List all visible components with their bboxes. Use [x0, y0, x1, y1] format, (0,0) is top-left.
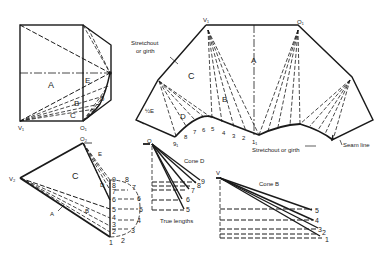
dev-stretchout-top-1: Stretchout [131, 40, 159, 46]
plan-v-line-4 [20, 104, 100, 121]
dev-label-c: C [188, 71, 195, 81]
svg-text:A: A [50, 211, 54, 217]
plan-v-line-2 [20, 86, 108, 121]
svg-text:6: 6 [186, 196, 190, 203]
svg-text:O₂: O₂ [80, 136, 88, 142]
svg-text:5: 5 [211, 126, 215, 132]
dev-leader-seam [340, 140, 342, 145]
svg-text:True lengths: True lengths [160, 218, 193, 224]
plan-v-line-3 [20, 96, 104, 121]
fan-v1 [208, 30, 259, 135]
dev-stretchout-top-2: or girth [136, 48, 155, 54]
svg-text:2: 2 [322, 229, 326, 236]
svg-text:7: 7 [112, 188, 116, 195]
plan-label-o1: O₁ [80, 125, 87, 131]
svg-text:2: 2 [121, 237, 125, 244]
svg-text:2: 2 [112, 228, 116, 235]
svg-text:3: 3 [131, 227, 135, 234]
transition-development-drawing: A E B C D V₁ O₁ [0, 0, 391, 256]
svg-text:1: 1 [109, 239, 113, 246]
svg-text:5: 5 [315, 207, 319, 214]
plan-o-line-3 [83, 104, 100, 121]
svg-text:5: 5 [139, 206, 143, 213]
development-pattern: V₁ O₁ A C B D ½E 9₁ 1₁ Stretchout or gir… [131, 17, 373, 153]
svg-text:4: 4 [112, 214, 116, 221]
svg-text:O: O [147, 138, 152, 144]
dev-label-b: B [222, 95, 227, 104]
svg-text:8: 8 [184, 134, 188, 140]
svg-text:E: E [98, 151, 102, 157]
plan-label-a: A [48, 80, 54, 90]
svg-text:5: 5 [186, 206, 190, 213]
plan-v-line-5 [20, 109, 95, 121]
svg-text:5: 5 [112, 206, 116, 213]
svg-text:6: 6 [202, 127, 206, 133]
dev-label-1-1: 1₁ [252, 139, 257, 145]
plan-label-d: D [100, 96, 105, 102]
svg-text:4: 4 [315, 217, 319, 224]
elevation-view: O₂ V₂ C E D B A 9 8 7 6 5 4 3 2 1 8 7 6 … [9, 136, 143, 246]
svg-text:B: B [85, 208, 89, 214]
dev-seam-left [136, 120, 144, 124]
svg-text:6: 6 [137, 195, 141, 202]
svg-text:3: 3 [112, 221, 116, 228]
plan-label-v1: V₁ [18, 125, 24, 131]
dev-label-v1: V₁ [203, 17, 209, 23]
plan-point-e [108, 71, 112, 75]
svg-text:4: 4 [222, 130, 226, 136]
svg-text:V: V [216, 170, 220, 176]
dev-label-9-1: 9₁ [173, 141, 178, 147]
plan-label-c: C [70, 111, 76, 120]
svg-text:6: 6 [112, 196, 116, 203]
plan-label-b: B [74, 99, 79, 108]
svg-text:7: 7 [132, 184, 136, 191]
svg-text:3: 3 [232, 133, 236, 139]
svg-text:8: 8 [125, 176, 129, 183]
svg-text:9: 9 [201, 178, 205, 185]
elevation-outer-numbers: 8 7 6 5 4 3 2 [121, 176, 143, 244]
plan-diag-upper [88, 28, 110, 73]
plan-label-e: E [85, 76, 90, 85]
dev-seam-line: Seam line [343, 142, 370, 148]
dev-label-a: A [251, 56, 257, 65]
fan-o1 [259, 30, 300, 135]
plan-view: A E B C D V₁ O₁ [18, 25, 112, 131]
svg-text:7: 7 [191, 187, 195, 194]
dev-label-half-e: ½E [145, 108, 154, 114]
svg-text:2: 2 [242, 135, 246, 141]
dev-stretchout-bottom: Stretchout or girth [252, 147, 300, 153]
cone-b-true-lengths: V Cone B 5 4 3 2 1 [216, 170, 329, 243]
dev-label-d: D [180, 112, 186, 121]
svg-text:V₂: V₂ [9, 176, 16, 182]
cone-d-true-lengths: O Cone D True lengths 9 8 7 6 5 [143, 138, 205, 224]
svg-text:7: 7 [193, 129, 197, 135]
svg-text:Cone D: Cone D [184, 158, 205, 164]
svg-text:1: 1 [325, 236, 329, 243]
fan-right [300, 80, 350, 140]
svg-text:8: 8 [197, 182, 201, 189]
svg-text:D: D [100, 182, 105, 188]
dev-label-o1: O₁ [297, 19, 304, 25]
svg-text:C: C [72, 171, 79, 181]
dev-girth-numbers: 8 7 6 5 4 3 2 [184, 126, 246, 141]
svg-text:4: 4 [137, 217, 141, 224]
svg-text:Cone B: Cone B [259, 181, 279, 187]
